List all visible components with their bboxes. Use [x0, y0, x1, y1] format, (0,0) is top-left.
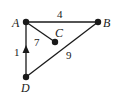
node-label-d: D — [20, 81, 30, 94]
node-b — [95, 19, 101, 25]
node-label-a: A — [11, 16, 20, 30]
node-label-c: C — [55, 26, 64, 40]
graph-diagram: A B C D 4 7 1 9 — [0, 0, 117, 94]
node-d — [23, 74, 29, 80]
weight-a-b: 4 — [57, 8, 63, 20]
arrow-up-icon — [23, 45, 30, 53]
node-label-b: B — [103, 16, 111, 30]
node-a — [23, 19, 29, 25]
weight-d-a: 1 — [14, 46, 20, 58]
weight-b-d: 9 — [66, 49, 72, 61]
edge-a-c — [26, 22, 55, 42]
weight-a-c: 7 — [34, 36, 40, 48]
